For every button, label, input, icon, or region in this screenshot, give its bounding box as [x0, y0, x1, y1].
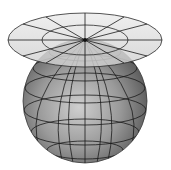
tangent-point	[83, 38, 87, 42]
projection-plane	[8, 13, 162, 67]
azimuthal-projection-diagram	[0, 0, 171, 170]
projection-illustration	[0, 0, 171, 170]
